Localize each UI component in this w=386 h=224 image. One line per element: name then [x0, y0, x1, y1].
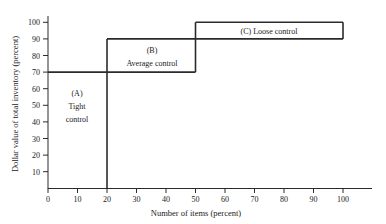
- y-tick-label-10: 10: [32, 168, 40, 177]
- x-tick-label-100: 100: [337, 195, 349, 204]
- zone-b-label: (B) Average control: [126, 46, 178, 68]
- x-tick-label-0: 0: [46, 195, 50, 204]
- y-tick-label-50: 50: [32, 101, 40, 110]
- x-tick-label-90: 90: [310, 195, 318, 204]
- y-tick-label-100: 100: [28, 18, 40, 27]
- chart-canvas: 100 90 80 70 60 50 40 30 20 10: [0, 0, 386, 224]
- x-tick-label-20: 20: [103, 195, 111, 204]
- y-tick-label-70: 70: [32, 68, 40, 77]
- zone-c-label: (C) Loose control: [241, 27, 299, 36]
- x-axis-tick-labels: 0 10 20 30 40 50 60 70 80 90 100: [46, 195, 349, 204]
- abc-inventory-step-chart: 100 90 80 70 60 50 40 30 20 10: [0, 0, 386, 224]
- step-curve-group: [48, 22, 343, 188]
- y-axis-ticks: [43, 22, 48, 171]
- zone-a-line3: control: [66, 115, 89, 124]
- x-tick-label-80: 80: [280, 195, 288, 204]
- y-tick-label-90: 90: [32, 35, 40, 44]
- zone-b-line2: Average control: [126, 59, 178, 68]
- zone-b-line1: (B): [147, 46, 158, 55]
- x-tick-label-50: 50: [192, 195, 200, 204]
- y-axis-title: Dollar value of total inventory (percent…: [10, 36, 20, 172]
- zone-a-line2: Tight: [68, 102, 86, 111]
- x-tick-label-10: 10: [74, 195, 82, 204]
- y-tick-label-60: 60: [32, 85, 40, 94]
- y-tick-label-40: 40: [32, 118, 40, 127]
- x-tick-label-30: 30: [133, 195, 141, 204]
- x-axis-title: Number of items (percent): [151, 208, 242, 218]
- x-axis-ticks: [48, 189, 343, 194]
- axis-group: [48, 16, 372, 189]
- y-tick-label-20: 20: [32, 151, 40, 160]
- x-tick-label-70: 70: [251, 195, 259, 204]
- y-tick-label-30: 30: [32, 135, 40, 144]
- y-axis-tick-labels: 100 90 80 70 60 50 40 30 20 10: [28, 18, 40, 176]
- zone-c-line1: (C) Loose control: [241, 27, 299, 36]
- zone-a-line1: (A): [71, 89, 82, 98]
- y-tick-label-80: 80: [32, 52, 40, 61]
- zone-a-label: (A) Tight control: [66, 89, 89, 124]
- x-tick-label-40: 40: [162, 195, 170, 204]
- x-tick-label-60: 60: [221, 195, 229, 204]
